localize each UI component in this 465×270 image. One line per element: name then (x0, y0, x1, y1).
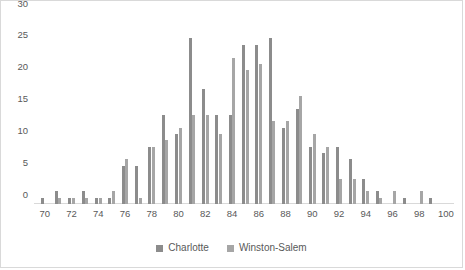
y-axis-tick-label: 10 (6, 126, 28, 136)
bar (192, 115, 195, 204)
bar (282, 128, 285, 204)
bar (125, 159, 128, 204)
y-axis-tick-label: 15 (6, 94, 28, 104)
bar (135, 166, 138, 204)
bar (85, 198, 88, 204)
bar (309, 147, 312, 204)
y-axis-tick-label: 5 (6, 158, 28, 168)
bar (286, 121, 289, 204)
legend-swatch-icon (156, 245, 163, 252)
x-axis-tick-label: 100 (438, 209, 454, 219)
bar (152, 147, 155, 204)
bar (326, 147, 329, 204)
x-axis-tick-label: 74 (93, 209, 104, 219)
plot-area: 051015202530 707274767880828486889092949… (34, 13, 454, 204)
x-axis-tick-label: 76 (120, 209, 131, 219)
chart-legend: CharlotteWinston-Salem (1, 243, 462, 253)
bar (349, 159, 352, 204)
bar (148, 147, 151, 204)
bar (322, 153, 325, 204)
x-axis-tick-label: 86 (253, 209, 264, 219)
bar (272, 121, 275, 204)
bar (296, 109, 299, 205)
legend-label: Winston-Salem (239, 243, 307, 253)
bar (232, 58, 235, 204)
bar (366, 191, 369, 204)
bar (72, 198, 75, 204)
bar (313, 134, 316, 204)
bar (269, 38, 272, 204)
y-axis-tick-label: 0 (6, 190, 28, 200)
bar (165, 140, 168, 204)
bar (229, 115, 232, 204)
bar (376, 191, 379, 204)
bar (99, 198, 102, 204)
legend-swatch-icon (227, 245, 234, 252)
bar (179, 128, 182, 204)
bar (336, 147, 339, 204)
bar (403, 198, 406, 204)
legend-item[interactable]: Winston-Salem (227, 243, 307, 253)
x-axis-tick-label: 80 (173, 209, 184, 219)
bar (420, 191, 423, 204)
bar (189, 38, 192, 204)
legend-label: Charlotte (168, 243, 209, 253)
x-axis-tick-label: 82 (200, 209, 211, 219)
bar (108, 198, 111, 204)
bar (379, 198, 382, 204)
x-axis-tick-label: 94 (360, 209, 371, 219)
bar (219, 134, 222, 204)
bar (41, 198, 44, 204)
chart-container: 051015202530 707274767880828486889092949… (0, 0, 463, 268)
bar (122, 166, 125, 204)
x-axis-tick-label: 84 (227, 209, 238, 219)
bar (139, 198, 142, 204)
x-axis-tick-label: 92 (334, 209, 345, 219)
bar (55, 191, 58, 204)
bar (162, 115, 165, 204)
bar (58, 198, 61, 204)
x-axis-tick-label: 88 (280, 209, 291, 219)
bar (246, 70, 249, 204)
bar (429, 198, 432, 204)
bar (215, 115, 218, 204)
y-axis-tick-label: 20 (6, 62, 28, 72)
bar (339, 179, 342, 204)
bar (255, 45, 258, 204)
bar (259, 64, 262, 204)
bar (82, 191, 85, 204)
bar (202, 89, 205, 204)
y-axis-tick-label: 30 (6, 0, 28, 8)
x-axis-tick-label: 90 (307, 209, 318, 219)
bar (393, 191, 396, 204)
bar (68, 198, 71, 204)
bar (95, 198, 98, 204)
bar (242, 45, 245, 204)
bar (353, 179, 356, 204)
legend-item[interactable]: Charlotte (156, 243, 209, 253)
x-axis-tick-label: 78 (146, 209, 157, 219)
bar (206, 115, 209, 204)
x-axis-tick-label: 70 (39, 209, 50, 219)
bar (175, 134, 178, 204)
x-axis-tick-label: 96 (387, 209, 398, 219)
x-axis-tick-label: 98 (414, 209, 425, 219)
bar (112, 191, 115, 204)
x-axis-tick-label: 72 (66, 209, 77, 219)
y-axis-tick-label: 25 (6, 31, 28, 41)
bar (362, 179, 365, 204)
bar (299, 96, 302, 204)
